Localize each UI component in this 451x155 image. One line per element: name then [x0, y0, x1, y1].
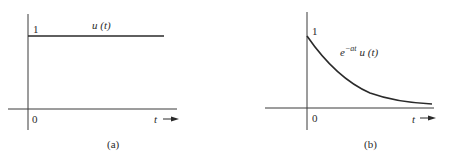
curve-label-b: e−atu (t) — [340, 44, 378, 59]
curve-label-rest: u (t) — [360, 46, 379, 59]
origin-label-b: 0 — [312, 112, 318, 124]
caption-b: (b) — [364, 138, 377, 151]
x-axis-label-a: t — [154, 113, 158, 125]
panel-a: 1 u (t) 0 t (a) — [8, 14, 179, 151]
caption-a: (a) — [107, 138, 120, 151]
origin-label-a: 0 — [32, 113, 38, 125]
x-axis-label-b: t — [412, 113, 416, 125]
curve-label-exp: −at — [345, 44, 357, 53]
y-tick-label-b: 1 — [312, 25, 318, 37]
panel-b: 1 e−atu (t) 0 t (b) — [265, 12, 436, 151]
signals-diagram: 1 u (t) 0 t (a) 1 e−atu (t) 0 t (b) — [0, 0, 451, 155]
y-tick-label-a: 1 — [33, 23, 39, 35]
arrow-right-icon — [420, 116, 436, 121]
curve-label-a: u (t) — [92, 19, 111, 32]
arrow-right-icon — [163, 117, 179, 122]
